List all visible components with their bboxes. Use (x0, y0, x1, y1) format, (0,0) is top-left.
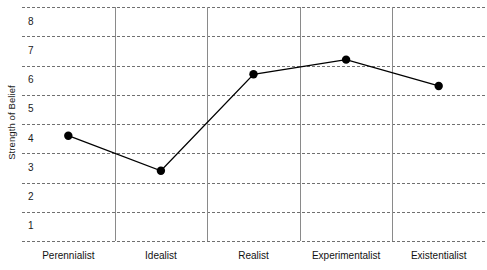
x-axis-category-label: Existentialist (411, 250, 467, 261)
data-point-marker[interactable] (249, 70, 257, 78)
data-point-marker[interactable] (64, 132, 72, 140)
x-axis-category-labels: PerennialistIdealistRealistExperimentali… (22, 248, 485, 268)
chart-container: Strength of Belief 87654321 Perennialist… (0, 0, 487, 270)
x-axis-category-label: Experimentalist (312, 250, 380, 261)
x-axis-category-label: Realist (238, 250, 269, 261)
x-axis-category-label: Idealist (145, 250, 177, 261)
data-point-marker[interactable] (342, 55, 350, 63)
data-point-marker[interactable] (435, 82, 443, 90)
plot-area: 87654321 (22, 0, 485, 245)
data-point-marker[interactable] (157, 167, 165, 175)
line-series-svg (22, 0, 485, 245)
x-axis-category-label: Perennialist (42, 250, 94, 261)
y-axis-title: Strength of Belief (0, 0, 22, 245)
y-axis-title-label: Strength of Belief (6, 85, 17, 160)
series-markers-group (64, 55, 443, 175)
